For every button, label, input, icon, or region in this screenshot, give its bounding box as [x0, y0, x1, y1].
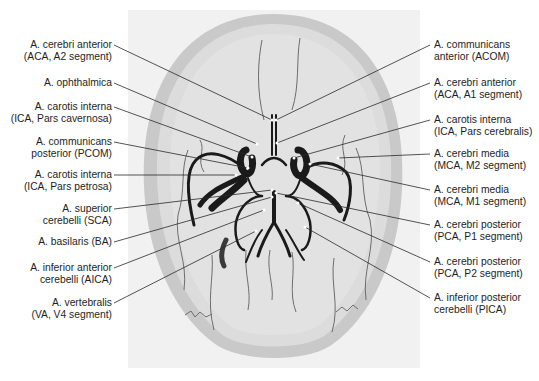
label-mca-m1: A. cerebri media (MCA, M1 segment): [434, 184, 526, 208]
label-line: posterior (PCOM): [31, 148, 112, 160]
label-line: (PCA, P1 segment): [434, 231, 523, 243]
label-aca-a1: A. cerebri anterior (ACA, A1 segment): [434, 77, 522, 101]
label-ica-cerebralis: A. carotis interna (ICA, Pars cerebralis…: [434, 114, 532, 138]
label-line: (ACA, A1 segment): [434, 89, 522, 101]
label-line: A. ophthalmica: [44, 77, 112, 89]
label-va-v4: A. vertebralis (VA, V4 segment): [32, 297, 113, 321]
label-line: A. cerebri anterior: [434, 77, 522, 89]
label-line: (ACA, A2 segment): [24, 51, 112, 63]
label-pca-p1: A. cerebri posterior (PCA, P1 segment): [434, 219, 523, 243]
label-line: A. cerebri media: [434, 148, 526, 160]
label-aca-a2: A. cerebri anterior (ACA, A2 segment): [24, 39, 112, 63]
label-ba: A. basilaris (BA): [38, 236, 112, 248]
angiogram-figure: A. cerebri anterior (ACA, A2 segment) A.…: [0, 0, 539, 381]
label-line: A. carotis interna: [24, 169, 112, 181]
label-pica: A. inferior posterior cerebelli (PICA): [434, 292, 521, 316]
label-line: A. inferior anterior: [30, 262, 112, 274]
label-line: cerebelli (AICA): [30, 274, 112, 286]
label-sca: A. superior cerebelli (SCA): [43, 203, 112, 227]
label-line: A. cerebri media: [434, 184, 526, 196]
label-line: A. basilaris (BA): [38, 236, 112, 248]
label-line: A. communicans: [31, 136, 112, 148]
label-line: cerebelli (SCA): [43, 215, 112, 227]
label-line: anterior (ACOM): [434, 51, 510, 63]
label-aica: A. inferior anterior cerebelli (AICA): [30, 262, 112, 286]
label-line: A. carotis interna: [11, 101, 112, 113]
label-line: A. cerebri anterior: [24, 39, 112, 51]
label-line: A. cerebri posterior: [434, 256, 523, 268]
label-line: A. carotis interna: [434, 114, 532, 126]
label-pcom: A. communicans posterior (PCOM): [31, 136, 112, 160]
label-line: (ICA, Pars cavernosa): [11, 113, 112, 125]
label-line: (PCA, P2 segment): [434, 268, 523, 280]
label-ica-cavernosa: A. carotis interna (ICA, Pars cavernosa): [11, 101, 112, 125]
label-ophthalmica: A. ophthalmica: [44, 77, 112, 89]
label-line: cerebelli (PICA): [434, 304, 521, 316]
label-line: (VA, V4 segment): [32, 309, 113, 321]
label-line: A. cerebri posterior: [434, 219, 523, 231]
label-line: (MCA, M2 segment): [434, 160, 526, 172]
label-line: (ICA, Pars cerebralis): [434, 126, 532, 138]
label-line: A. communicans: [434, 39, 510, 51]
label-line: A. inferior posterior: [434, 292, 521, 304]
label-line: A. superior: [43, 203, 112, 215]
label-line: (MCA, M1 segment): [434, 196, 526, 208]
label-pca-p2: A. cerebri posterior (PCA, P2 segment): [434, 256, 523, 280]
label-line: (ICA, Pars petrosa): [24, 181, 112, 193]
label-ica-petrosa: A. carotis interna (ICA, Pars petrosa): [24, 169, 112, 193]
label-line: A. vertebralis: [32, 297, 113, 309]
label-mca-m2: A. cerebri media (MCA, M2 segment): [434, 148, 526, 172]
label-acom: A. communicans anterior (ACOM): [434, 39, 510, 63]
